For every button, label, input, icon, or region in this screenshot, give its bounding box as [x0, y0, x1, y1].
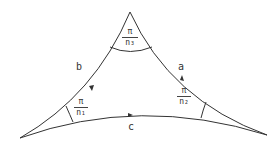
- left-angle-denominator: n₁: [76, 108, 86, 117]
- left-angle-label: π n₁: [74, 98, 88, 117]
- side-b-arrow-icon: [89, 85, 94, 91]
- top-angle-denominator: n₃: [125, 38, 135, 47]
- side-c-label: c: [128, 122, 134, 132]
- side-b-label: b: [76, 62, 82, 72]
- side-b-curve: [20, 12, 130, 138]
- hyperbolic-triangle-diagram: b a c π n₃ π n₁ π n₂: [0, 0, 280, 146]
- right-angle-denominator: n₂: [179, 97, 189, 106]
- top-angle-numerator: π: [128, 27, 133, 36]
- top-angle-arc: [110, 47, 152, 52]
- left-angle-arc: [66, 106, 73, 122]
- top-angle-label: π n₃: [122, 28, 138, 47]
- right-angle-numerator: π: [182, 86, 187, 95]
- side-a-arrow-icon: [180, 75, 184, 81]
- right-angle-arc: [201, 102, 206, 118]
- left-angle-numerator: π: [79, 97, 84, 106]
- side-a-label: a: [178, 62, 184, 72]
- side-a-curve: [130, 12, 267, 135]
- triangle-drawing: [0, 0, 280, 146]
- right-angle-label: π n₂: [177, 87, 191, 106]
